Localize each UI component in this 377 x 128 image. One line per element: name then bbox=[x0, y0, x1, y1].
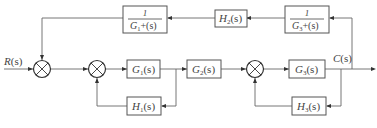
block-g1: G1(s) bbox=[127, 60, 160, 78]
arrow-into-g3 bbox=[284, 67, 289, 71]
wire-h3-feedback-in bbox=[327, 69, 341, 106]
svg-text:G2(s): G2(s) bbox=[192, 63, 215, 77]
svg-text:H3(s): H3(s) bbox=[296, 100, 320, 114]
svg-text:G1+(s): G1+(s) bbox=[130, 20, 157, 32]
summing-junction-1 bbox=[34, 61, 51, 78]
block-g2: G2(s) bbox=[187, 60, 221, 78]
arrow-into-h1 bbox=[161, 104, 166, 108]
arrow-into-s3-bottom bbox=[253, 78, 257, 83]
arrow-output bbox=[371, 67, 376, 71]
wire-h3-feedback-out bbox=[255, 78, 292, 106]
wire-h1-feedback-out bbox=[97, 78, 127, 106]
block-h2: H2(s) bbox=[215, 10, 247, 27]
svg-text:H1(s): H1(s) bbox=[131, 100, 155, 114]
output-label: C(s) bbox=[333, 52, 352, 65]
block-inverse-g3: 1 G3+(s) bbox=[285, 6, 329, 33]
svg-text:1: 1 bbox=[305, 8, 310, 18]
summing-junction-2 bbox=[89, 61, 106, 78]
arrow-into-invg3 bbox=[329, 16, 334, 20]
arrow-into-s2 bbox=[83, 67, 88, 71]
svg-text:1: 1 bbox=[143, 8, 148, 18]
block-h3: H3(s) bbox=[292, 97, 326, 115]
arrow-into-h3 bbox=[326, 104, 331, 108]
arrow-into-s1 bbox=[28, 67, 33, 71]
arrow-into-invg1 bbox=[167, 16, 172, 20]
wire-h1-feedback-in bbox=[162, 69, 176, 106]
arrow-into-s1-top bbox=[40, 55, 44, 60]
svg-text:G3(s): G3(s) bbox=[295, 63, 318, 77]
block-g3: G3(s) bbox=[289, 60, 325, 78]
svg-text:H2(s): H2(s) bbox=[218, 12, 242, 26]
arrow-into-g2 bbox=[182, 67, 187, 71]
block-diagram: G1(s) G2(s) G3(s) H1(s) H3(s) H2(s) 1 G1… bbox=[0, 0, 377, 128]
svg-text:G3+(s): G3+(s) bbox=[292, 20, 319, 32]
svg-text:G1(s): G1(s) bbox=[132, 63, 155, 77]
block-h1: H1(s) bbox=[127, 97, 161, 115]
wire-top-feedback-out bbox=[42, 18, 123, 60]
arrow-into-s3 bbox=[241, 67, 246, 71]
block-inverse-g1: 1 G1+(s) bbox=[123, 6, 167, 33]
arrow-into-s2-bottom bbox=[95, 78, 99, 83]
input-label: R(s) bbox=[3, 55, 23, 68]
summing-junction-3 bbox=[247, 61, 264, 78]
arrow-into-g1 bbox=[122, 67, 127, 71]
